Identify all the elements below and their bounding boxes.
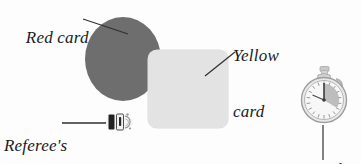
label-yellow-card: Yellow card (233, 10, 279, 160)
label-stop-watch-text: Stop-watch (268, 160, 347, 164)
label-red-card-text: Red card (26, 28, 89, 47)
yellow-card-shape (148, 50, 228, 128)
label-stop-watch: Stop-watch (250, 141, 346, 164)
label-yellow-card-line2: card (233, 103, 279, 122)
label-red-card: Red card (8, 9, 89, 66)
label-referees-whistle-line1: Referee's (4, 136, 67, 155)
label-referees-whistle: Referee's whistle (4, 98, 67, 164)
stop-watch-shape (296, 66, 352, 126)
label-yellow-card-line1: Yellow (233, 47, 279, 66)
referees-whistle-shape (104, 112, 134, 132)
referee-equipment-figure: Red card Yellow card Referee's whistle S… (0, 0, 361, 164)
